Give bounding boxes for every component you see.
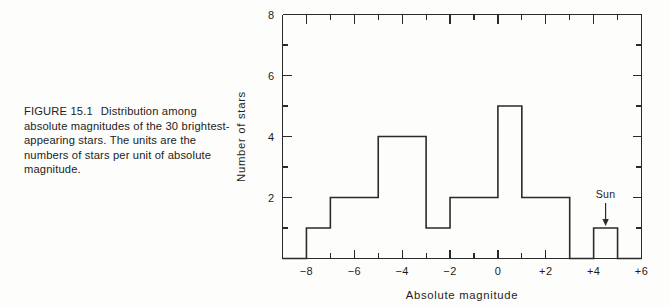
x-tick-label--8: −8 [300,265,313,277]
y-tick-label-6: 6 [268,70,275,82]
histogram-step-outline [283,106,642,259]
x-tick-label--4: −4 [395,265,408,277]
sun-annotation-label: Sun [596,188,616,200]
y-tick-label-2: 2 [268,192,275,204]
x-axis-tick-labels: −8−6−4−20+2+4+6 [300,265,648,277]
x-tick-label-0: 0 [495,265,502,277]
x-tick-label-2: +2 [539,265,552,277]
y-tick-label-4: 4 [268,131,275,143]
x-tick-label--6: −6 [348,265,361,277]
y-axis-title: Number of stars [235,91,247,182]
y-tick-label-8: 8 [268,9,275,21]
histogram-plot: −8−6−4−20+2+4+6 2468 Sun Absolute magnit… [0,0,670,306]
histogram-figure: −8−6−4−20+2+4+6 2468 Sun Absolute magnit… [0,0,670,306]
x-tick-label-6: +6 [635,265,648,277]
sun-annotation: Sun [596,188,616,226]
y-axis-ticks [283,15,642,229]
x-tick-label--2: −2 [443,265,456,277]
sun-arrow-head [602,219,608,226]
x-tick-label-4: +4 [587,265,600,277]
y-axis-tick-labels: 2468 [268,9,275,204]
x-axis-title: Absolute magnitude [406,289,518,301]
x-axis-ticks [283,15,642,259]
